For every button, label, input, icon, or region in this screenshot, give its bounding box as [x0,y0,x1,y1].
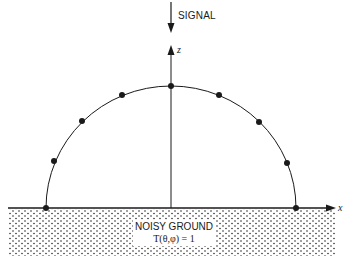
sample-point [168,83,174,89]
sample-point [51,158,57,164]
signal-label: SIGNAL [178,10,216,21]
z-axis-label: z [177,44,181,55]
ground-temperature-formula: T(θ,φ) = 1 [133,233,215,245]
z-axis-arrow-icon [168,45,175,55]
sample-point [256,119,262,125]
sample-point [79,118,85,124]
noisy-ground-label-box: NOISY GROUND T(θ,φ) = 1 [133,220,215,246]
sample-point [216,92,222,98]
x-axis-label: x [338,202,342,213]
sample-point [284,160,290,166]
sample-point [43,205,49,211]
sample-point [119,92,125,98]
noisy-ground-title: NOISY GROUND [133,221,215,233]
signal-arrow-icon [168,23,175,33]
sample-point [293,205,299,211]
